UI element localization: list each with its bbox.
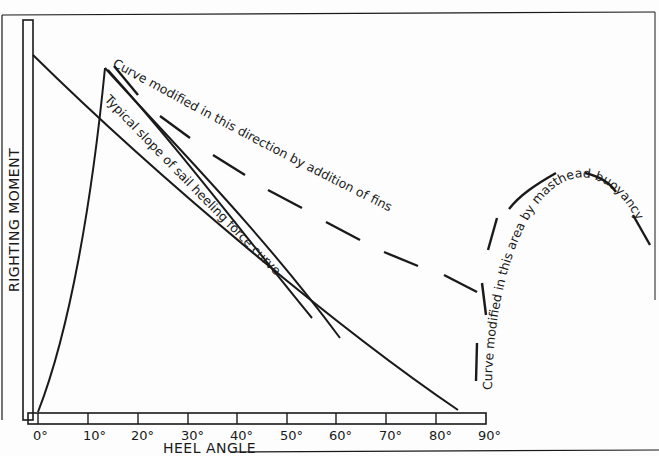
x-tick-label: 50° — [280, 428, 303, 443]
annotation-masthead: Curve modified in this area by masthead … — [480, 165, 648, 390]
outer-frame — [2, 12, 659, 452]
x-tick-label: 90° — [478, 428, 501, 443]
x-tick-label: 70° — [379, 428, 402, 443]
x-tick-label: 60° — [329, 428, 352, 443]
x-axis-ticks — [38, 413, 436, 424]
righting-moment-curve — [38, 68, 340, 412]
x-tick-label: 20° — [131, 428, 154, 443]
righting-moment-diagram: 0° 10° 20° 30° 40° 50° 60° 70° 80° 90° H… — [0, 0, 659, 456]
y-axis — [23, 20, 33, 420]
x-tick-label: 10° — [83, 428, 106, 443]
x-tick-label: 0° — [33, 428, 48, 443]
x-axis — [28, 413, 486, 424]
x-axis-title: HEEL ANGLE — [163, 440, 256, 456]
diagram-canvas: 0° 10° 20° 30° 40° 50° 60° 70° 80° 90° H… — [0, 0, 659, 456]
x-tick-labels: 0° 10° 20° 30° 40° 50° 60° 70° 80° 90° — [33, 428, 501, 443]
x-tick-label: 80° — [429, 428, 452, 443]
annotation-sail-heeling: Typical slope of sail heeling force curv… — [101, 91, 284, 278]
y-axis-title: RIGHTING MOMENT — [6, 148, 22, 292]
